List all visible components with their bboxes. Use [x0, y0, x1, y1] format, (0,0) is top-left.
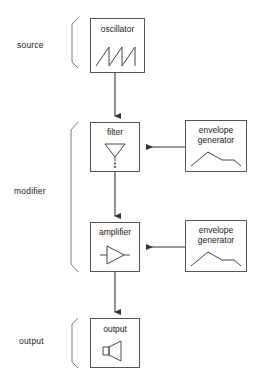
group-label-output: output	[19, 336, 44, 346]
group-bracket-source	[72, 18, 78, 68]
funnel-icon	[91, 142, 139, 170]
node-amplifier[interactable]: amplifier	[90, 222, 140, 272]
amplifier-triangle-icon	[91, 243, 139, 267]
node-envelope-generator-1-label-line1: envelope	[186, 125, 246, 135]
node-envelope-generator-2-label: envelope generator	[186, 225, 246, 245]
node-envelope-generator-2-label-line1: envelope	[186, 225, 246, 235]
node-output-label: output	[91, 324, 139, 334]
speaker-icon	[91, 340, 139, 362]
node-oscillator[interactable]: oscillator	[90, 18, 145, 73]
node-output[interactable]: output	[90, 318, 140, 368]
group-label-source: source	[17, 40, 44, 50]
envelope-curve-icon	[186, 249, 246, 269]
group-bracket-modifier	[71, 122, 78, 272]
node-envelope-generator-2-label-line2: generator	[186, 235, 246, 245]
node-oscillator-label: oscillator	[91, 24, 144, 34]
diagram-canvas: source modifier output oscillator filter…	[0, 0, 256, 381]
node-filter-label: filter	[91, 127, 139, 137]
node-envelope-generator-1[interactable]: envelope generator	[185, 120, 247, 172]
sawtooth-wave-icon	[91, 45, 144, 67]
node-envelope-generator-1-label-line2: generator	[186, 135, 246, 145]
node-envelope-generator-2[interactable]: envelope generator	[185, 220, 247, 272]
envelope-curve-icon	[186, 149, 246, 169]
group-bracket-output	[72, 318, 78, 368]
group-label-modifier: modifier	[14, 186, 46, 196]
node-envelope-generator-1-label: envelope generator	[186, 125, 246, 145]
node-amplifier-label: amplifier	[91, 227, 139, 237]
node-filter[interactable]: filter	[90, 122, 140, 172]
